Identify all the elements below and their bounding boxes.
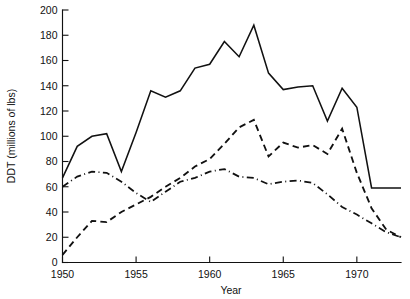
y-tick-label-160: 160 — [40, 54, 58, 66]
x-tick-label-1965: 1965 — [272, 268, 296, 280]
x-axis-title: Year — [220, 284, 242, 296]
series-line-dash-dot — [63, 169, 402, 237]
ddt-production-line-chart: 020406080100120140160180200 DDT (million… — [0, 0, 410, 299]
y-tick-label-120: 120 — [40, 105, 58, 117]
x-tick-label-1950: 1950 — [51, 268, 75, 280]
y-tick-label-200: 200 — [40, 4, 58, 16]
x-axis-group: 19501955196019651970 Year — [51, 257, 401, 297]
y-axis-tick-labels: 020406080100120140160180200 — [40, 4, 58, 269]
x-axis-ticks — [63, 257, 357, 263]
series-line-solid — [63, 25, 402, 188]
y-tick-label-100: 100 — [40, 130, 58, 142]
chart-canvas: 020406080100120140160180200 DDT (million… — [0, 0, 410, 299]
y-tick-label-180: 180 — [40, 29, 58, 41]
y-axis-ticks — [63, 10, 69, 263]
y-tick-label-20: 20 — [46, 231, 58, 243]
y-tick-label-0: 0 — [52, 256, 58, 268]
x-tick-label-1960: 1960 — [198, 268, 222, 280]
y-tick-label-80: 80 — [46, 155, 58, 167]
y-axis-title: DDT (millions of lbs) — [5, 89, 17, 183]
x-tick-label-1955: 1955 — [124, 268, 148, 280]
y-tick-label-60: 60 — [46, 181, 58, 193]
y-tick-label-40: 40 — [46, 206, 58, 218]
series-line-dashed — [63, 120, 402, 255]
x-axis-tick-labels: 19501955196019651970 — [51, 268, 369, 280]
data-series-layer — [63, 25, 402, 255]
y-axis-group: 020406080100120140160180200 DDT (million… — [5, 4, 69, 269]
x-tick-label-1970: 1970 — [345, 268, 369, 280]
y-tick-label-140: 140 — [40, 80, 58, 92]
